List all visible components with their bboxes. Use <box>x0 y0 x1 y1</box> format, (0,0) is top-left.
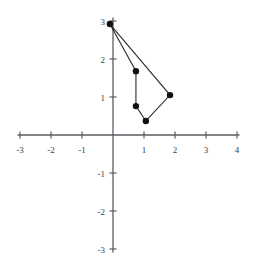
x-tick-label: 2 <box>173 145 178 155</box>
y-tick-label: 3 <box>101 17 106 27</box>
polygon-group <box>107 21 174 124</box>
data-point <box>133 68 139 74</box>
y-tick-label: -2 <box>98 207 106 217</box>
y-tick-label: 1 <box>101 93 106 103</box>
x-axis-group: -3-2-11234 <box>16 132 240 156</box>
data-point <box>143 118 149 124</box>
x-tick-label: -1 <box>78 145 86 155</box>
data-point <box>133 103 139 109</box>
x-tick-label: -3 <box>16 145 24 155</box>
x-tick-label: 1 <box>142 145 147 155</box>
x-axis-tick-labels: -3-2-11234 <box>16 145 240 155</box>
y-tick-label: -3 <box>98 245 106 255</box>
x-tick-label: -2 <box>47 145 55 155</box>
data-point <box>107 21 113 27</box>
x-tick-label: 3 <box>204 145 209 155</box>
plot-canvas: -3-2-11234 321-1-2-3 <box>0 0 255 264</box>
polygon-outline <box>110 24 170 121</box>
x-tick-label: 4 <box>235 145 240 155</box>
y-tick-label: -1 <box>98 169 106 179</box>
y-tick-label: 2 <box>101 55 106 65</box>
coordinate-plane-figure: -3-2-11234 321-1-2-3 <box>0 0 255 264</box>
data-point <box>167 92 173 98</box>
